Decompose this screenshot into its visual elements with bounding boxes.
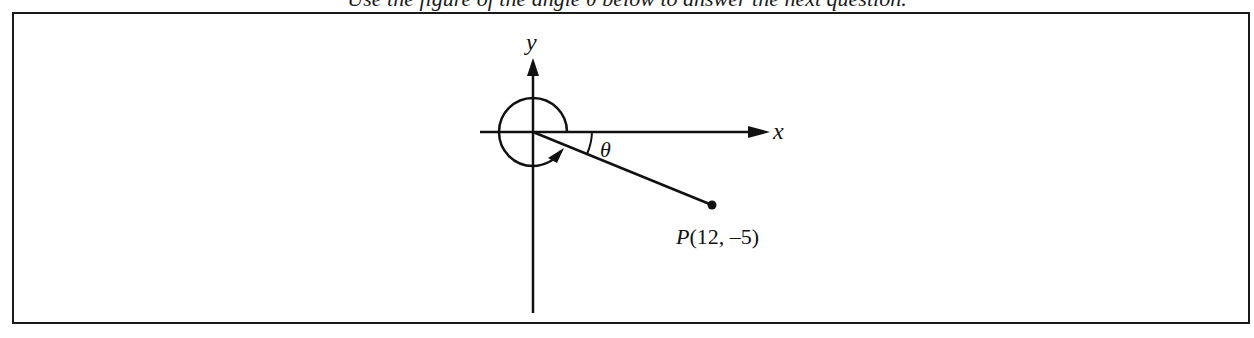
terminal-side xyxy=(533,132,712,205)
y-axis-label: y xyxy=(524,29,537,55)
point-p-dot xyxy=(708,201,717,210)
x-axis xyxy=(480,126,770,138)
x-axis-arrow-icon xyxy=(748,126,770,138)
theta-label: θ xyxy=(600,137,611,162)
x-axis-label: x xyxy=(772,118,784,144)
theta-arc xyxy=(587,132,592,154)
point-p-label: P(12, –5) xyxy=(675,224,759,249)
y-axis-arrow-icon xyxy=(527,58,539,76)
y-axis xyxy=(527,58,539,313)
angle-diagram: y x θ P(12, –5) xyxy=(0,0,1254,338)
point-p-name: P xyxy=(675,224,689,249)
point-p-coords: (12, –5) xyxy=(689,224,759,249)
